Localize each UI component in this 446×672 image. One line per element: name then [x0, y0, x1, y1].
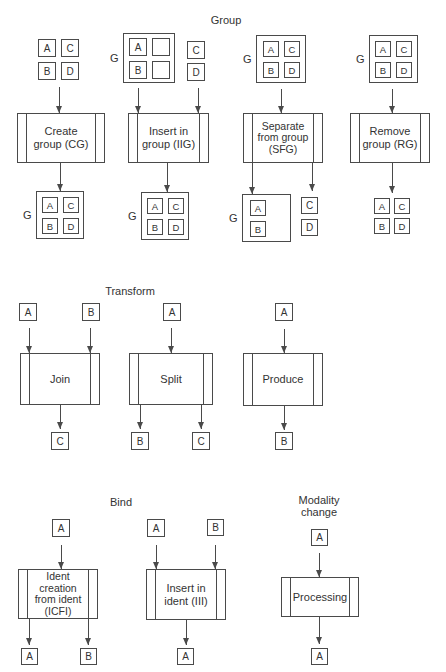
item-box-empty	[152, 38, 170, 56]
process-box-remove-group: Remove group (RG)	[350, 113, 430, 163]
item-box-c: C	[301, 197, 318, 214]
group-box: A B	[123, 33, 175, 83]
item-box-d: D	[63, 218, 79, 234]
section-title-bind: Bind	[110, 496, 132, 508]
arrow-down-icon	[29, 619, 30, 645]
group-box: A B	[242, 194, 291, 242]
process-label-line: Ident	[46, 571, 69, 583]
item-box-c: C	[51, 432, 69, 450]
item-box-d: D	[284, 62, 300, 78]
arrow-down-icon	[29, 328, 30, 353]
modality-title-line1: Modality	[299, 494, 340, 506]
group-label-g: G	[128, 210, 137, 222]
item-box-a: A	[38, 39, 56, 57]
item-box-a: A	[374, 198, 390, 214]
item-box-d: D	[394, 218, 410, 234]
process-label-line: Insert in	[166, 582, 205, 595]
item-box-c: C	[61, 39, 79, 57]
process-box-separate-from-group: Separate from group (SFG)	[243, 113, 323, 163]
item-box-a: A	[147, 198, 163, 214]
item-box-a: A	[275, 303, 293, 321]
arrow-down-icon	[138, 88, 139, 113]
item-box-a: A	[21, 648, 38, 665]
arrow-down-icon	[59, 87, 60, 113]
process-box-join: Join	[20, 353, 100, 405]
arrow-down-icon	[284, 329, 285, 353]
item-box-d: D	[61, 62, 79, 80]
process-label-line: Produce	[263, 373, 304, 386]
process-box-produce: Produce	[243, 353, 323, 406]
item-box-a: A	[147, 519, 165, 537]
arrow-down-icon	[319, 617, 320, 644]
arrow-down-icon	[186, 620, 187, 645]
item-box-d: D	[396, 62, 412, 78]
item-box-b: B	[374, 218, 390, 234]
arrow-down-icon	[61, 545, 62, 569]
process-box-create-group: Create group (CG)	[17, 113, 105, 163]
item-box-b: B	[38, 62, 56, 80]
arrow-down-icon	[319, 553, 320, 577]
arrow-down-icon	[90, 328, 91, 353]
process-label-line: (SFG)	[269, 144, 298, 156]
section-title-group: Group	[211, 14, 242, 26]
section-title-transform: Transform	[105, 285, 155, 297]
process-label-line: group (CG)	[33, 138, 88, 151]
arrow-down-icon	[215, 545, 216, 569]
process-label-line: Remove	[370, 125, 411, 138]
arrow-down-icon	[60, 163, 61, 191]
item-box-a: A	[375, 41, 391, 57]
item-box-c: C	[192, 432, 210, 450]
item-box-b: B	[275, 432, 293, 450]
process-label-line: Split	[160, 373, 181, 386]
item-box-b: B	[207, 519, 224, 536]
item-box-b: B	[42, 218, 58, 234]
item-box-a: A	[52, 519, 70, 537]
group-label-g: G	[229, 212, 238, 224]
arrow-down-icon	[156, 545, 157, 569]
group-box: A C B D	[36, 191, 84, 239]
item-box-c: C	[63, 197, 79, 213]
group-label-g: G	[23, 209, 32, 221]
process-label-line: group (IIG)	[142, 138, 195, 151]
item-box-b: B	[375, 62, 391, 78]
arrow-down-icon	[167, 163, 168, 192]
item-box-empty	[152, 61, 170, 79]
process-label-line: (ICFI)	[45, 606, 72, 618]
item-box-b: B	[147, 219, 163, 235]
arrow-down-icon	[281, 89, 282, 113]
item-box-d: D	[168, 219, 184, 235]
item-box-a: A	[311, 648, 328, 665]
arrow-down-icon	[198, 88, 199, 113]
item-box-a: A	[263, 41, 279, 57]
arrow-down-icon	[284, 406, 285, 430]
arrow-down-icon	[392, 163, 393, 193]
item-box-c: C	[284, 41, 300, 57]
process-box-processing: Processing	[281, 577, 359, 617]
group-label-g: G	[110, 52, 119, 64]
item-box-c: C	[396, 41, 412, 57]
item-box-d: D	[187, 63, 205, 81]
item-box-b: B	[82, 303, 100, 321]
arrow-down-icon	[88, 619, 89, 645]
group-label-g: G	[243, 53, 252, 65]
process-box-insert-in-ident: Insert in ident (III)	[146, 569, 226, 620]
arrow-down-icon	[201, 405, 202, 429]
process-box-insert-in-group: Insert in group (IIG)	[128, 113, 209, 163]
diagram-canvas: Group A C B D Create group (CG) G A C B …	[0, 0, 446, 672]
item-box-a: A	[19, 303, 37, 321]
process-label-line: Create	[44, 125, 77, 138]
group-box: A C B D	[369, 35, 418, 83]
group-box: A C B D	[256, 35, 306, 83]
item-box-b: B	[80, 648, 97, 665]
process-label-line: ident (III)	[164, 595, 207, 608]
section-title-modality-change: Modality change	[299, 494, 340, 518]
item-box-b: B	[263, 62, 279, 78]
arrow-down-icon	[60, 405, 61, 429]
item-box-a: A	[129, 38, 147, 56]
item-box-b: B	[131, 432, 149, 450]
item-box-c: C	[394, 198, 410, 214]
item-box-a: A	[177, 648, 194, 665]
group-label-g: G	[356, 53, 365, 65]
process-label-line: Insert in	[149, 125, 188, 138]
arrow-down-icon	[171, 328, 172, 353]
